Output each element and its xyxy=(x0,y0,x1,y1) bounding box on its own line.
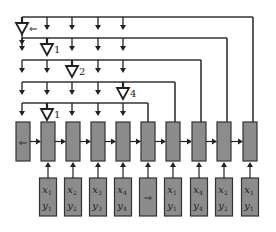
down-arrow-icon xyxy=(19,90,25,95)
right-arrow-icon xyxy=(36,139,41,145)
tap-label: 4 xyxy=(130,88,136,99)
down-arrow-icon xyxy=(120,68,126,73)
down-arrow-icon xyxy=(44,68,50,73)
up-arrow-icon xyxy=(196,162,202,167)
rnn-cell-box xyxy=(91,122,105,161)
tap-label: 1 xyxy=(54,109,60,120)
down-arrow-icon xyxy=(95,68,101,73)
down-arrow-icon xyxy=(44,90,50,95)
input-symbol: ⇒ xyxy=(144,192,152,203)
right-arrow-icon xyxy=(86,139,91,145)
down-arrow-icon xyxy=(120,46,126,51)
down-arrow-icon xyxy=(95,25,101,30)
rnn-cell-box xyxy=(243,122,257,161)
down-arrow-icon xyxy=(19,46,25,51)
down-arrow-icon xyxy=(69,111,75,116)
bus-lines: ⇐1241 xyxy=(16,17,253,122)
right-arrow-icon xyxy=(187,139,192,145)
right-arrow-icon xyxy=(161,139,166,145)
down-arrow-icon xyxy=(95,90,101,95)
down-arrow-icon xyxy=(69,25,75,30)
up-arrow-icon xyxy=(247,162,253,167)
rnn-cell-box xyxy=(41,122,55,161)
up-arrow-icon xyxy=(95,162,101,167)
rnn-cell-box xyxy=(116,122,130,161)
input-boxes: x1y1x2y2x3y3x4y4⇒x1y1x4y4x2y2x1y1 xyxy=(40,162,259,216)
rnn-cell-box xyxy=(66,122,80,161)
memory-read-diagram: ⇐1241 ⇐ x1y1x2y2x3y3x4y4⇒x1y1x4y4x2y2x1y… xyxy=(0,0,276,232)
read-head-triangle-icon xyxy=(41,109,53,120)
up-arrow-icon xyxy=(120,162,126,167)
read-head-triangle-icon xyxy=(66,66,78,77)
down-arrow-icon xyxy=(69,46,75,51)
read-head-triangle-icon xyxy=(16,23,28,34)
right-arrow-icon xyxy=(212,139,217,145)
right-arrow-icon xyxy=(61,139,66,145)
read-head-triangle-icon xyxy=(41,44,53,55)
down-arrow-icon xyxy=(44,25,50,30)
rnn-cell-box xyxy=(217,122,231,161)
rnn-cell-box xyxy=(141,122,155,161)
up-arrow-icon xyxy=(45,162,51,167)
tap-label: 1 xyxy=(54,44,60,55)
tap-label: ⇐ xyxy=(29,23,37,34)
down-arrow-icon xyxy=(19,68,25,73)
rnn-cell-box xyxy=(192,122,206,161)
up-arrow-icon xyxy=(70,162,76,167)
down-arrow-icon xyxy=(120,111,126,116)
right-arrow-icon xyxy=(136,139,141,145)
down-arrow-icon xyxy=(95,46,101,51)
down-arrow-icon xyxy=(120,25,126,30)
rnn-cell-box xyxy=(166,122,180,161)
right-arrow-icon xyxy=(238,139,243,145)
up-arrow-icon xyxy=(145,162,151,167)
rnn-cells: ⇐ xyxy=(16,122,257,161)
cell-label: ⇐ xyxy=(19,137,27,148)
down-arrow-icon xyxy=(19,111,25,116)
up-arrow-icon xyxy=(221,162,227,167)
down-arrow-icon xyxy=(95,111,101,116)
right-arrow-icon xyxy=(111,139,116,145)
up-arrow-icon xyxy=(170,162,176,167)
read-head-triangle-icon xyxy=(117,88,129,99)
tap-label: 2 xyxy=(79,66,85,77)
down-arrow-icon xyxy=(69,90,75,95)
